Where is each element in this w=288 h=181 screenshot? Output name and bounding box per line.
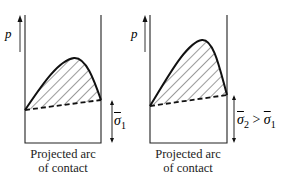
- p-axis-label: p: [131, 26, 138, 42]
- caption-line2: of contact: [13, 161, 113, 175]
- left-panel: [18, 15, 115, 143]
- greater-than-sign: >: [249, 112, 264, 127]
- sigma-symbol: σ: [114, 113, 121, 128]
- left-caption: Projected arc of contact: [13, 147, 113, 175]
- sigma-subscript: 1: [271, 119, 276, 130]
- sigma2-comparison-label: σ2 > σ1: [237, 112, 276, 130]
- sigma2-arrowhead-up-icon: [232, 95, 236, 100]
- sigma1-arrowhead-down-icon: [110, 138, 114, 143]
- sigma-symbol: σ: [237, 112, 244, 127]
- caption-line2: of contact: [138, 161, 238, 175]
- p-axis-label: p: [5, 26, 12, 42]
- caption-line1: Projected arc: [138, 147, 238, 161]
- sigma2-arrowhead-down-icon: [232, 138, 236, 143]
- sigma1-arrowhead-up-icon: [110, 100, 114, 105]
- caption-line1: Projected arc: [13, 147, 113, 161]
- sigma-symbol: σ: [264, 112, 271, 127]
- p-arrowhead-icon: [143, 15, 148, 22]
- right-caption: Projected arc of contact: [138, 147, 238, 175]
- sigma1-label: σ1: [114, 113, 126, 131]
- sigma-subscript: 1: [121, 120, 126, 131]
- p-arrowhead-icon: [18, 15, 23, 22]
- right-panel: [143, 15, 237, 143]
